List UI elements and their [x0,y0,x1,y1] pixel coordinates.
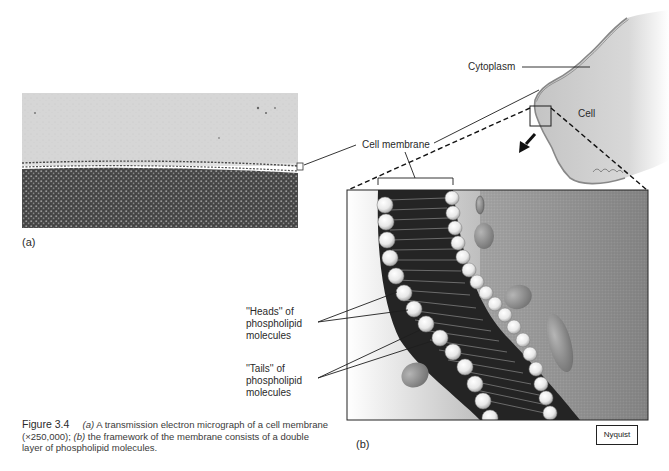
label-cytoplasm: Cytoplasm [468,61,515,73]
label-heads: ''Heads'' of phospholipid molecules [246,306,302,342]
direction-arrow-icon [519,134,535,153]
figure-caption: Figure 3.4 (a) A transmission electron m… [22,419,332,454]
figure-artwork [0,0,669,471]
panel-b-label: (b) [356,438,369,450]
cell-membrane-leader [434,90,539,143]
leader-line [304,145,356,165]
label-tails: ''Tails'' of phospholipid molecules [246,363,302,399]
membrane-bracket-b [378,152,453,185]
artist-credit-box: Nyquist [596,425,638,445]
figure-number: Figure 3.4 [22,418,69,430]
panel-a-label: (a) [22,236,35,248]
bilayer-illustration [347,190,648,426]
membrane-bracket-a [297,163,303,170]
label-cell: Cell [578,108,595,120]
cell-illustration [534,10,669,184]
label-cell-membrane: Cell membrane [362,139,430,151]
caption-marker-b: (b) [74,431,86,442]
electron-micrograph [22,93,298,228]
caption-marker-a: (a) [82,419,94,430]
